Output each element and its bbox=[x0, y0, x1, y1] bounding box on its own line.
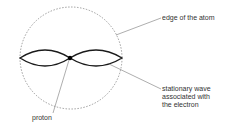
edge-label: edge of the atom bbox=[162, 14, 215, 22]
edge-leader-line bbox=[116, 18, 161, 35]
left-wave-lobe bbox=[20, 50, 70, 66]
wave-label: stationary wave associated with the elec… bbox=[162, 85, 211, 109]
proton-dot bbox=[68, 56, 72, 60]
right-wave-lobe bbox=[70, 50, 122, 66]
wave-leader-line bbox=[109, 64, 161, 89]
proton-leader-line bbox=[53, 60, 69, 113]
proton-label: proton bbox=[32, 114, 52, 122]
